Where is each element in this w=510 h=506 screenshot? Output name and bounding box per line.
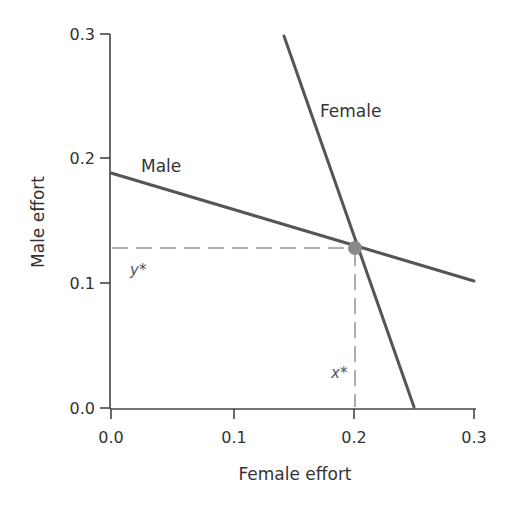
x-star-label: x* [330,364,348,382]
y-axis: 0.3 0.2 0.1 0.0 [70,25,110,418]
x-tick-label: 0.3 [461,428,486,447]
y-tick-label: 0.1 [70,274,95,293]
x-tick-label: 0.2 [341,428,366,447]
x-tick-label: 0.0 [98,428,123,447]
female-reaction-line [284,36,414,407]
male-reaction-line [111,173,474,281]
reaction-curve-chart: 0.3 0.2 0.1 0.0 0.0 0.1 0.2 0.3 Female e… [0,0,510,506]
x-tick-label: 0.1 [221,428,246,447]
male-label: Male [141,156,181,176]
y-tick-label: 0.2 [70,149,95,168]
y-tick-label: 0.3 [70,25,95,44]
x-axis: 0.0 0.1 0.2 0.3 [98,409,486,447]
equilibrium-guides [112,248,355,407]
female-label: Female [320,101,381,121]
equilibrium-point [348,241,362,255]
y-star-label: y* [129,261,147,279]
x-axis-title: Female effort [238,464,351,484]
y-axis-title: Male effort [28,176,48,268]
y-tick-label: 0.0 [70,399,95,418]
